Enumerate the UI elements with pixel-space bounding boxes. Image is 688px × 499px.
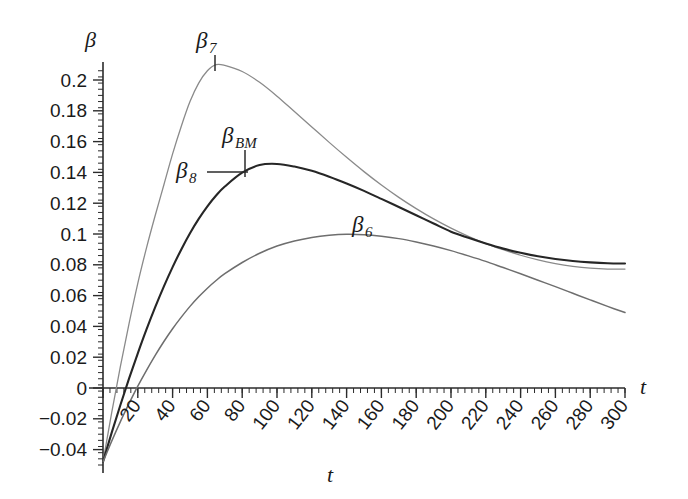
x-tick-label: 60 bbox=[185, 396, 215, 426]
x-tick-label: 20 bbox=[115, 396, 145, 426]
x-tick-label: 120 bbox=[283, 396, 319, 434]
y-tick-labels: −0.04−0.0200.020.040.060.080.10.120.140.… bbox=[39, 70, 88, 461]
x-tick-label: 40 bbox=[150, 396, 180, 426]
annotation-beta6: β6 bbox=[351, 212, 373, 240]
y-axis-title: β bbox=[84, 27, 96, 52]
annotation-beta7-base: β bbox=[195, 28, 208, 53]
x-tick-label: 140 bbox=[318, 396, 354, 434]
annotation-beta8-base: β bbox=[175, 158, 188, 183]
y-tick-label: 0.1 bbox=[61, 224, 87, 245]
x-tick-label: 260 bbox=[526, 396, 562, 434]
annotation-beta7: β7 bbox=[195, 28, 218, 56]
x-tick-label: 100 bbox=[248, 396, 284, 434]
x-tick-label: 300 bbox=[596, 396, 632, 434]
x-tick-label: 180 bbox=[387, 396, 423, 434]
x-tick-label: 200 bbox=[422, 396, 458, 434]
x-tick-label: 280 bbox=[561, 396, 597, 434]
annotation-betaBM-subscript: BM bbox=[235, 135, 258, 151]
y-tick-label: −0.04 bbox=[39, 439, 88, 460]
x-tick-label: 220 bbox=[457, 396, 493, 434]
y-tick-label: 0.14 bbox=[50, 162, 87, 183]
annotation-betaBM-base: β bbox=[221, 123, 234, 148]
annotation-beta8: β8 bbox=[175, 158, 197, 186]
annotation-betaBM: βBM bbox=[221, 123, 258, 151]
x-axis-title-right: t bbox=[640, 374, 647, 399]
x-tick-label: 160 bbox=[352, 396, 388, 434]
chart-figure: −0.04−0.0200.020.040.060.080.10.120.140.… bbox=[0, 0, 688, 499]
y-tick-label: 0.06 bbox=[50, 285, 87, 306]
y-tick-label: 0.2 bbox=[61, 70, 87, 91]
x-tick-labels: 2040608010012014016018020022024026028030… bbox=[115, 396, 632, 434]
line-chart: −0.04−0.0200.020.040.060.080.10.120.140.… bbox=[0, 0, 688, 499]
x-tick-label: 240 bbox=[492, 396, 528, 434]
y-tick-label: 0.04 bbox=[50, 316, 87, 337]
y-tick-label: −0.02 bbox=[39, 408, 87, 429]
annotation-beta8-subscript: 8 bbox=[189, 170, 197, 186]
y-tick-label: 0.18 bbox=[50, 100, 87, 121]
y-tick-label: 0.16 bbox=[50, 131, 87, 152]
annotation-beta6-base: β bbox=[351, 212, 364, 237]
y-tick-label: 0.12 bbox=[50, 193, 87, 214]
x-axis-title-bottom: t bbox=[327, 462, 334, 487]
y-tick-label: 0 bbox=[76, 378, 87, 399]
x-tick-label: 80 bbox=[220, 396, 250, 426]
annotation-beta7-subscript: 7 bbox=[209, 40, 218, 56]
annotation-beta6-subscript: 6 bbox=[365, 224, 373, 240]
y-tick-label: 0.08 bbox=[50, 254, 87, 275]
y-tick-label: 0.02 bbox=[50, 347, 87, 368]
